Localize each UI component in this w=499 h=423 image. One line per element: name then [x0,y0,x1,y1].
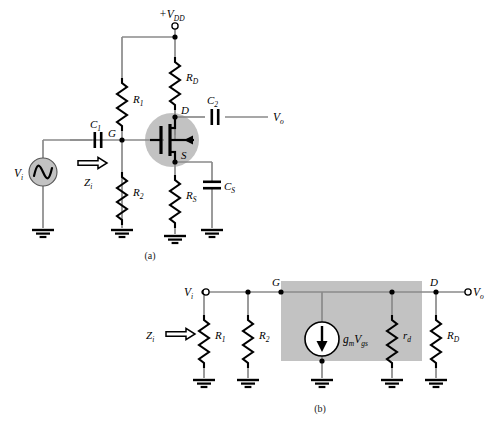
node-dot-b-drain [433,289,438,294]
dependent-current-source [305,322,339,356]
node-dot-b-r2 [245,289,250,294]
ground-b-r1 [193,380,215,387]
ground-b-src [311,380,333,387]
ground-r2-a [111,230,133,237]
resistor-RD-b [431,315,441,368]
output-vo-label-b: Vo [473,286,484,301]
vo-terminal-b[interactable] [465,289,471,295]
input-vi-label-b: Vi [184,286,193,301]
node-label-source-a: S [181,149,187,161]
ground-b-RD [425,380,447,387]
input-vi-label-a: Vi [14,167,23,182]
node-dot-gate [119,137,124,142]
node-dot-b-rd-int [389,289,394,294]
resistor-R2-b [243,315,253,368]
output-vo-label-a: Vo [273,111,284,126]
caption-a: (a) [144,250,155,262]
vi-terminal-b[interactable] [203,289,209,295]
resistor-RS [170,175,180,228]
resistor-R1-b [199,315,209,368]
ground-b-r2 [237,380,259,387]
model-highlight-box [281,281,422,361]
circuit-diagram-svg: +VDD R1 R2 RD RS [0,0,499,423]
resistor-RS-label: RS [185,189,197,204]
capacitor-CS [203,182,221,188]
node-label-drain-a: D [180,104,189,116]
zi-arrow-b [166,328,195,339]
capacitor-CS-label: CS [224,180,235,195]
node-label-gate-b: G [272,276,280,288]
node-label-gate-a: G [108,127,116,139]
resistor-R2-label: R2 [132,186,144,201]
figure-container: +VDD R1 R2 RD RS [0,0,499,423]
capacitor-C2 [212,109,218,125]
node-dot-b-gate [278,289,283,294]
zi-label-b: Zi [146,329,154,344]
resistor-RD-label-b: RD [446,329,460,344]
ground-source-a [32,230,54,237]
resistor-R1 [117,78,127,131]
schematic-a: +VDD R1 R2 RD RS [14,8,284,262]
node-label-drain-b: D [429,276,438,288]
resistor-RD-label: RD [185,71,199,86]
zi-label-a: Zi [84,176,92,191]
capacitor-C1-label: C1 [90,118,101,133]
resistor-R1-label-b: R1 [214,329,225,344]
resistor-R2-label-b: R2 [258,329,270,344]
zi-arrow-a [78,157,107,168]
ground-rs-a [164,236,186,243]
node-dot-vdd [172,34,177,39]
vdd-terminal[interactable] [172,23,178,29]
caption-b: (b) [314,403,326,415]
ground-b-rd [381,380,403,387]
capacitor-C2-label: C2 [207,94,218,109]
vdd-label: +VDD [159,8,185,23]
ground-cs-a [201,230,223,237]
node-dot-b-src-bottom [319,358,324,363]
resistor-RD [170,57,180,110]
schematic-b: Vi Vo Zi R1 R2 rd [146,276,484,415]
resistor-R1-label: R1 [132,93,143,108]
